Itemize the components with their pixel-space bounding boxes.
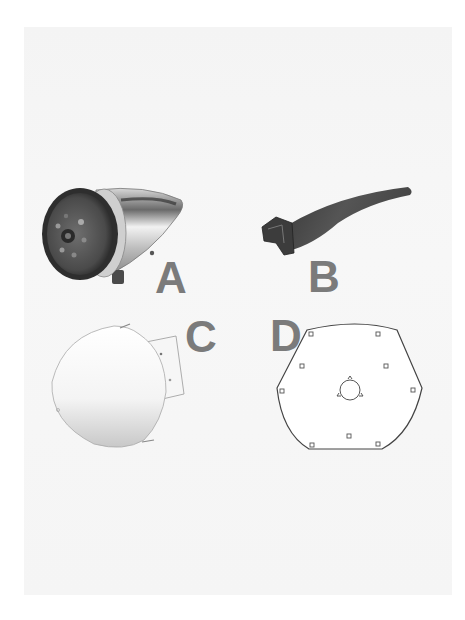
label-d: D [270, 314, 302, 358]
figure-panel [24, 27, 452, 595]
label-c: C [185, 315, 217, 359]
label-b: B [308, 255, 340, 299]
part-c-nose-cone [44, 322, 194, 452]
label-a: A [155, 256, 187, 300]
